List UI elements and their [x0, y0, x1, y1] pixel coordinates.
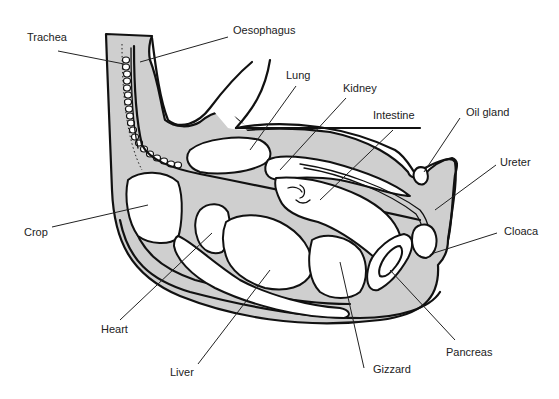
label-crop: Crop: [24, 227, 48, 238]
label-liver: Liver: [170, 367, 194, 378]
label-oesophagus: Oesophagus: [233, 25, 295, 36]
label-ureter: Ureter: [500, 157, 531, 168]
bird-anatomy-diagram: [0, 0, 559, 399]
label-trachea: Trachea: [27, 32, 67, 43]
label-cloaca: Cloaca: [504, 226, 538, 237]
cloaca: [412, 224, 437, 258]
label-intestine: Intestine: [373, 110, 415, 121]
label-pancreas: Pancreas: [446, 347, 492, 358]
label-heart: Heart: [101, 324, 128, 335]
label-kidney: Kidney: [343, 83, 377, 94]
label-oil-gland: Oil gland: [466, 107, 509, 118]
label-lung: Lung: [286, 70, 310, 81]
label-gizzard: Gizzard: [373, 364, 411, 375]
